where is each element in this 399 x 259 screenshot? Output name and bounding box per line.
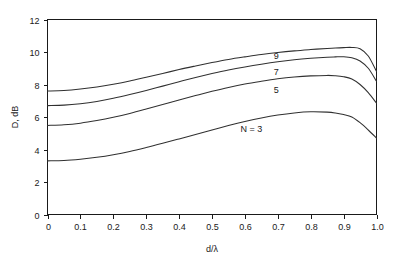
series-label-5: 5 (274, 85, 279, 95)
y-axis-title: D, dB (10, 106, 20, 129)
x-tick-label: 0.9 (338, 222, 351, 232)
y-tick-label: 12 (29, 16, 39, 26)
x-tick-label: 0.3 (140, 222, 153, 232)
series-label-9: 9 (274, 51, 279, 61)
y-tick-label: 10 (29, 48, 39, 58)
x-tick-label: 0.8 (305, 222, 318, 232)
x-axis-title: d/λ (206, 244, 219, 254)
y-tick-label: 8 (34, 81, 39, 91)
x-tick-label: 0.2 (107, 222, 120, 232)
x-tick-label: 0.1 (74, 222, 87, 232)
x-tick-label: 0.5 (206, 222, 219, 232)
series-label-n-3: N = 3 (241, 124, 263, 134)
y-tick-label: 4 (34, 146, 39, 156)
x-tick-label: 0.6 (239, 222, 252, 232)
chart-background (0, 0, 399, 259)
chart-plot: 00.10.20.30.40.50.60.70.80.91.0 02468101… (0, 0, 399, 259)
chart-container: 00.10.20.30.40.50.60.70.80.91.0 02468101… (0, 0, 399, 259)
x-tick-label: 0.7 (272, 222, 285, 232)
y-tick-label: 2 (34, 178, 39, 188)
series-label-7: 7 (274, 67, 279, 77)
x-tick-label: 0.4 (173, 222, 186, 232)
x-tick-label: 1.0 (371, 222, 384, 232)
y-tick-label: 6 (34, 113, 39, 123)
y-tick-label: 0 (34, 211, 39, 221)
x-tick-label: 0 (46, 222, 51, 232)
